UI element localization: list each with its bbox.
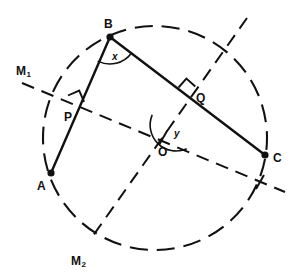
label-line-m2-subscript: 2 (82, 260, 86, 269)
label-line-m2-letter: M (71, 254, 81, 268)
label-point-b: B (104, 18, 113, 30)
label-point-p: P (64, 111, 72, 123)
label-angle-x: x (112, 52, 118, 62)
label-line-m1: M1 (16, 65, 30, 77)
label-point-o: O (158, 146, 168, 158)
label-point-c: C (273, 152, 282, 164)
vertex-dot-b (106, 33, 113, 40)
label-line-m2: M2 (71, 255, 85, 267)
circumcircle (43, 26, 267, 250)
vertex-dot-c (261, 151, 268, 158)
chord-bc (110, 37, 265, 155)
chord-ab (51, 37, 110, 173)
label-line-m1-letter: M (16, 64, 26, 78)
geometry-figure: B A C P Q O M1 M2 x y (0, 0, 297, 277)
vertex-dot-a (47, 169, 54, 176)
label-angle-y: y (174, 129, 180, 139)
right-angle-mark-q (179, 79, 196, 88)
label-point-q: Q (196, 92, 206, 104)
label-line-m1-subscript: 1 (27, 70, 31, 79)
geometry-canvas (0, 0, 297, 277)
label-point-a: A (37, 180, 46, 192)
